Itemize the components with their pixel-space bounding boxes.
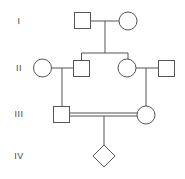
individual-iii-2-female-circle [137,106,155,124]
pedigree-chart [0,0,185,179]
individual-ii-3-female-circle [118,59,136,77]
individual-ii-1-female-circle [34,59,52,77]
individual-iv-1-unknown-diamond [93,145,115,167]
individual-ii-4-male-square [159,61,175,77]
individual-ii-2-male-square [74,61,90,77]
individual-i-1-male-square [75,13,91,29]
individual-i-2-female-circle [119,12,137,30]
individual-iii-1-male-square [54,107,70,123]
